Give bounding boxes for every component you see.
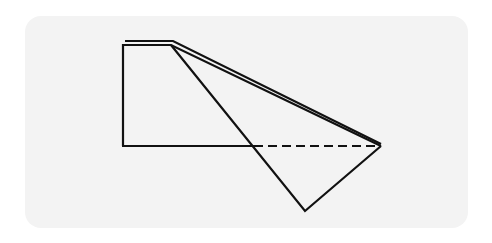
origami-fold-diagram xyxy=(0,0,492,243)
rectangle-left-edge xyxy=(123,45,381,146)
